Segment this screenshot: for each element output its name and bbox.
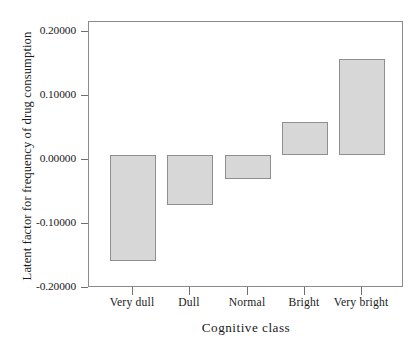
y-tick-mark-2	[81, 159, 88, 160]
bar-very-bright	[339, 59, 385, 155]
y-tick-label-1: 0.10000	[0, 88, 76, 100]
y-tick-label-4: -0.20000	[0, 280, 76, 292]
y-tick-label-3: -0.10000	[0, 216, 76, 228]
y-tick-mark-1	[81, 95, 88, 96]
x-axis-title: Cognitive class	[88, 320, 404, 336]
y-tick-label-0: 0.20000	[0, 24, 76, 36]
x-tick-mark-2	[247, 287, 248, 295]
bar-very-dull	[110, 155, 156, 261]
chart-figure: Latent factor for frequency of drug cons…	[0, 0, 416, 351]
y-tick-mark-3	[81, 223, 88, 224]
x-tick-mark-3	[304, 287, 305, 295]
y-tick-mark-4	[81, 287, 88, 288]
y-tick-mark-0	[81, 31, 88, 32]
x-tick-mark-4	[361, 287, 362, 295]
plot-area	[88, 21, 403, 287]
bar-dull	[167, 155, 213, 205]
x-tick-label-very-bright: Very bright	[306, 296, 416, 309]
bars-container	[89, 22, 402, 286]
bar-bright	[282, 122, 328, 155]
x-tick-mark-1	[189, 287, 190, 295]
y-tick-label-2: 0.00000	[0, 152, 76, 164]
x-tick-mark-0	[132, 287, 133, 295]
bar-normal	[225, 155, 271, 179]
